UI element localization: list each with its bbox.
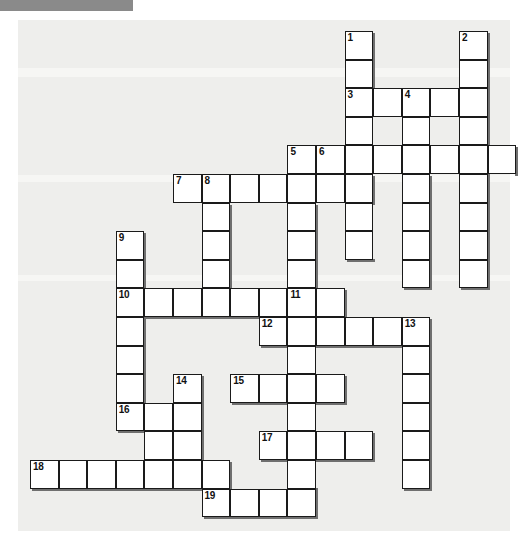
grid-cell-numbered-10[interactable]: 10	[116, 288, 145, 317]
grid-cell-numbered-18[interactable]: 18	[30, 460, 59, 489]
grid-cell[interactable]	[173, 460, 202, 489]
grid-cell[interactable]	[402, 117, 431, 146]
grid-cell[interactable]	[287, 489, 316, 518]
grid-cell-numbered-5[interactable]: 5	[287, 145, 316, 174]
grid-cell[interactable]	[402, 203, 431, 232]
grid-cell[interactable]	[402, 374, 431, 403]
grid-cell-numbered-13[interactable]: 13	[402, 317, 431, 346]
grid-cell[interactable]	[287, 460, 316, 489]
grid-cell[interactable]	[230, 489, 259, 518]
grid-cell[interactable]	[116, 374, 145, 403]
clue-number: 5	[290, 146, 295, 158]
grid-cell[interactable]	[202, 288, 231, 317]
grid-cell[interactable]	[173, 288, 202, 317]
grid-cell[interactable]	[345, 145, 374, 174]
grid-cell[interactable]	[373, 317, 402, 346]
grid-cell[interactable]	[173, 403, 202, 432]
grid-cell[interactable]	[287, 203, 316, 232]
grid-cell[interactable]	[402, 403, 431, 432]
grid-cell[interactable]	[259, 489, 288, 518]
grid-cell[interactable]	[287, 231, 316, 260]
grid-cell[interactable]	[287, 174, 316, 203]
grid-cell[interactable]	[459, 60, 488, 89]
grid-cell-numbered-1[interactable]: 1	[345, 31, 374, 60]
grid-cell[interactable]	[287, 374, 316, 403]
grid-cell[interactable]	[345, 174, 374, 203]
grid-cell[interactable]	[259, 174, 288, 203]
grid-cell[interactable]	[402, 145, 431, 174]
grid-cell-numbered-8[interactable]: 8	[202, 174, 231, 203]
grid-cell-numbered-7[interactable]: 7	[173, 174, 202, 203]
grid-cell[interactable]	[316, 374, 345, 403]
grid-cell[interactable]	[116, 317, 145, 346]
grid-cell[interactable]	[202, 203, 231, 232]
grid-cell[interactable]	[345, 317, 374, 346]
grid-cell-numbered-3[interactable]: 3	[345, 88, 374, 117]
grid-cell[interactable]	[373, 88, 402, 117]
grid-cell-numbered-6[interactable]: 6	[316, 145, 345, 174]
grid-cell[interactable]	[287, 317, 316, 346]
grid-cell[interactable]	[402, 431, 431, 460]
grid-cell-numbered-16[interactable]: 16	[116, 403, 145, 432]
grid-cell[interactable]	[459, 203, 488, 232]
grid-cell[interactable]	[459, 145, 488, 174]
grid-cell[interactable]	[402, 460, 431, 489]
grid-cell[interactable]	[230, 174, 259, 203]
grid-cell-numbered-2[interactable]: 2	[459, 31, 488, 60]
grid-cell[interactable]	[316, 317, 345, 346]
grid-cell-numbered-12[interactable]: 12	[259, 317, 288, 346]
grid-cell-numbered-15[interactable]: 15	[230, 374, 259, 403]
grid-cell[interactable]	[430, 88, 459, 117]
grid-cell-numbered-4[interactable]: 4	[402, 88, 431, 117]
clue-number: 3	[348, 89, 353, 101]
grid-cell[interactable]	[345, 203, 374, 232]
grid-cell[interactable]	[202, 231, 231, 260]
grid-cell-numbered-17[interactable]: 17	[259, 431, 288, 460]
grid-cell[interactable]	[459, 88, 488, 117]
grid-cell[interactable]	[173, 431, 202, 460]
grid-cell[interactable]	[202, 260, 231, 289]
crossword-grid[interactable]: 12345678910111213141516171819	[0, 0, 531, 556]
grid-cell[interactable]	[402, 231, 431, 260]
grid-cell[interactable]	[202, 460, 231, 489]
grid-cell[interactable]	[459, 174, 488, 203]
grid-cell[interactable]	[345, 60, 374, 89]
grid-cell[interactable]	[402, 346, 431, 375]
grid-cell[interactable]	[488, 145, 517, 174]
grid-cell[interactable]	[59, 460, 88, 489]
grid-cell[interactable]	[87, 460, 116, 489]
grid-cell[interactable]	[316, 431, 345, 460]
grid-cell[interactable]	[402, 260, 431, 289]
grid-cell[interactable]	[287, 431, 316, 460]
grid-cell[interactable]	[373, 145, 402, 174]
grid-cell[interactable]	[144, 431, 173, 460]
grid-cell[interactable]	[259, 374, 288, 403]
grid-cell[interactable]	[345, 231, 374, 260]
grid-cell[interactable]	[259, 288, 288, 317]
grid-cell[interactable]	[144, 403, 173, 432]
grid-cell-numbered-19[interactable]: 19	[202, 489, 231, 518]
grid-cell[interactable]	[116, 460, 145, 489]
grid-cell[interactable]	[459, 260, 488, 289]
clue-number: 12	[262, 318, 273, 330]
grid-cell[interactable]	[287, 346, 316, 375]
grid-cell[interactable]	[287, 403, 316, 432]
grid-cell[interactable]	[230, 288, 259, 317]
grid-cell-numbered-9[interactable]: 9	[116, 231, 145, 260]
grid-cell[interactable]	[430, 145, 459, 174]
grid-cell[interactable]	[345, 431, 374, 460]
grid-cell[interactable]	[287, 260, 316, 289]
grid-cell[interactable]	[459, 117, 488, 146]
grid-cell[interactable]	[116, 260, 145, 289]
grid-cell[interactable]	[116, 346, 145, 375]
grid-cell-numbered-14[interactable]: 14	[173, 374, 202, 403]
grid-cell[interactable]	[316, 288, 345, 317]
grid-cell[interactable]	[144, 460, 173, 489]
grid-cell[interactable]	[316, 174, 345, 203]
clue-number: 4	[405, 89, 410, 101]
grid-cell[interactable]	[459, 231, 488, 260]
grid-cell[interactable]	[144, 288, 173, 317]
grid-cell[interactable]	[345, 117, 374, 146]
grid-cell-numbered-11[interactable]: 11	[287, 288, 316, 317]
grid-cell[interactable]	[402, 174, 431, 203]
